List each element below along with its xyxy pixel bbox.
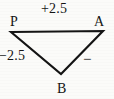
edge-label-top: +2.5 xyxy=(41,2,67,16)
geometry-figure: P A B +2.5 −2.5 − xyxy=(0,0,114,99)
vertex-label-b: B xyxy=(57,82,66,96)
edge-label-right: − xyxy=(83,52,91,67)
vertex-label-a: A xyxy=(94,15,104,29)
vertex-label-p: P xyxy=(10,15,18,29)
edge-label-left: −2.5 xyxy=(0,49,25,63)
